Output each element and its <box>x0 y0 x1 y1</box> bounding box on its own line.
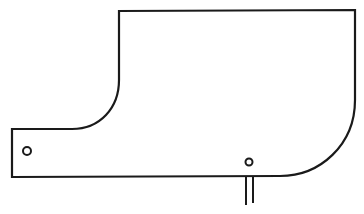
plate-outline <box>12 10 355 177</box>
plate-diagram <box>0 0 364 214</box>
left-tab-hole <box>23 147 31 155</box>
bottom-hole <box>246 159 253 166</box>
